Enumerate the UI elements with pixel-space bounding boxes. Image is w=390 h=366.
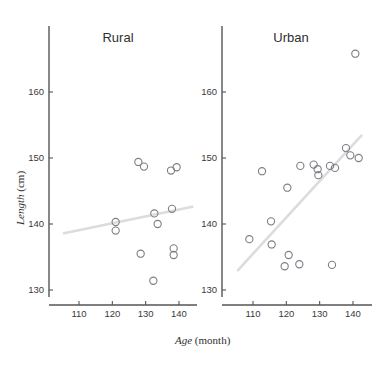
panel-rural: 130140150160110120130140Rural [28,26,197,319]
data-point[interactable] [296,261,303,268]
x-tick-label-110: 110 [71,308,86,319]
y-tick-label-130: 130 [28,284,44,295]
data-point[interactable] [267,218,274,225]
y-tick-label-130: 130 [201,284,217,295]
y-tick-label-140: 140 [28,218,44,229]
data-point[interactable] [258,168,265,175]
data-point[interactable] [137,250,144,257]
panel-urban: 130140150160110120130140Urban [201,26,372,319]
data-point[interactable] [285,251,292,258]
scatter-plot-figure: 130140150160110120130140Rural13014015016… [0,0,390,366]
y-axis-title-italic: Length [14,194,26,226]
data-point[interactable] [284,184,291,191]
trend-line-rural [64,207,192,233]
data-point[interactable] [173,164,180,171]
data-point[interactable] [268,241,275,248]
x-tick-label-140: 140 [171,308,187,319]
y-axis-title: Length (cm) [14,171,27,226]
x-tick-label-120: 120 [104,308,120,319]
y-tick-label-160: 160 [201,86,217,97]
x-axis-title-plain: (month) [192,334,231,347]
data-point[interactable] [140,163,147,170]
data-point[interactable] [246,236,253,243]
data-point[interactable] [112,227,119,234]
data-point[interactable] [347,152,354,159]
data-point[interactable] [328,261,335,268]
x-axis-title-italic: Age [174,334,192,346]
figure-container: 130140150160110120130140Rural13014015016… [0,0,390,366]
data-point[interactable] [355,154,362,161]
y-axis-title-plain: (cm) [14,171,27,195]
x-tick-label-120: 120 [278,308,294,319]
panel-title-urban: Urban [273,30,308,45]
data-point[interactable] [310,161,317,168]
y-tick-label-150: 150 [28,152,44,163]
panel-title-rural: Rural [102,30,133,45]
data-point[interactable] [150,277,157,284]
data-point[interactable] [297,162,304,169]
data-point[interactable] [352,50,359,57]
x-axis-title: Age (month) [174,334,231,347]
data-point[interactable] [281,263,288,270]
data-point[interactable] [154,220,161,227]
y-tick-label-160: 160 [28,86,44,97]
trend-line-urban [238,136,361,271]
x-tick-label-130: 130 [312,308,328,319]
x-tick-label-140: 140 [345,308,361,319]
x-tick-label-130: 130 [138,308,154,319]
x-tick-label-110: 110 [245,308,260,319]
y-tick-label-140: 140 [201,218,217,229]
y-tick-label-150: 150 [201,152,217,163]
